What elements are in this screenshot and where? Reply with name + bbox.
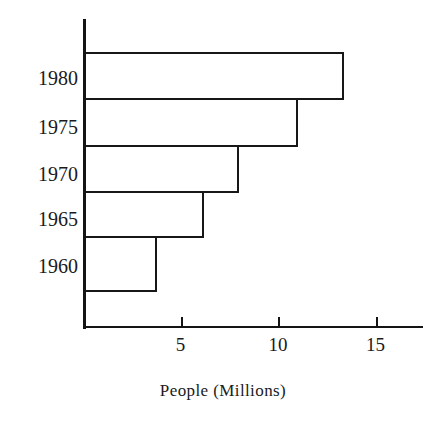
- x-tick-10: [278, 317, 280, 326]
- category-label-1975: 1975: [0, 115, 78, 139]
- x-axis-line: [83, 326, 423, 328]
- category-label-1970: 1970: [0, 162, 78, 186]
- bar-chart: 19801975197019651960 51015 People (Milli…: [0, 0, 446, 421]
- bar-1970: [83, 145, 239, 193]
- bar-1960: [83, 236, 157, 292]
- x-tick-5: [181, 317, 183, 326]
- category-label-1960: 1960: [0, 254, 78, 278]
- bar-1975: [83, 98, 298, 147]
- bar-1965: [83, 191, 204, 238]
- category-label-1980: 1980: [0, 66, 78, 90]
- x-axis-title: People (Millions): [0, 381, 446, 401]
- bar-1980: [83, 52, 344, 100]
- category-label-1965: 1965: [0, 207, 78, 231]
- x-tick-label-15: 15: [356, 334, 396, 356]
- x-tick-15: [376, 317, 378, 326]
- plot-area: 19801975197019651960 51015: [0, 0, 446, 421]
- x-tick-label-10: 10: [258, 334, 298, 356]
- y-axis-line: [83, 19, 86, 329]
- x-tick-label-5: 5: [161, 334, 201, 356]
